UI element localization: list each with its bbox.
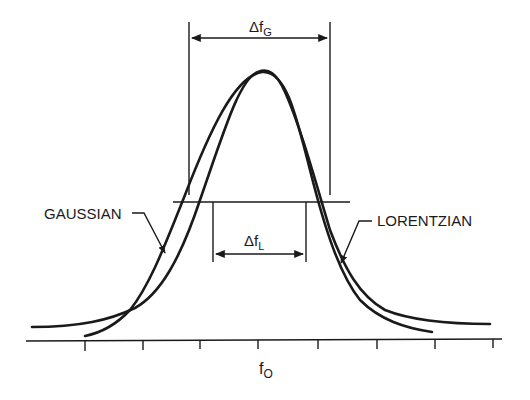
gaussian-leader-arrow [132, 213, 165, 253]
frequency-axis [26, 339, 502, 351]
lorentzian-curve [32, 71, 490, 327]
gaussian-curve [85, 72, 432, 336]
lorentzian-width-marker [213, 202, 306, 262]
lineshape-diagram: ΔfG ΔfL GAUSSIAN LORENTZIAN fO [0, 0, 530, 400]
lorentzian-leader-arrow [341, 221, 372, 263]
gaussian-label: GAUSSIAN [44, 205, 122, 222]
center-frequency-label: fO [259, 360, 273, 381]
lorentzian-label: LORENTZIAN [377, 212, 472, 229]
delta-fg-label: ΔfG [249, 18, 272, 38]
delta-fl-label: ΔfL [244, 232, 264, 252]
